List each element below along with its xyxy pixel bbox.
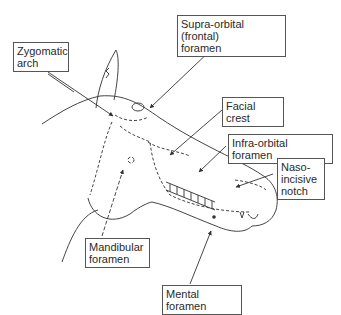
label-mental-foramen: Mental foramen	[162, 285, 242, 315]
label-zygomatic-arch: Zygomatic arch	[13, 42, 69, 72]
label-supra-orbital-foramen: Supra-orbital (frontal) foramen	[177, 15, 286, 57]
label-naso-incisive-notch: Naso- incisive notch	[277, 158, 325, 200]
mental-foramen-dot	[212, 215, 216, 219]
teeth	[166, 182, 258, 219]
leader-lines	[48, 48, 273, 284]
label-facial-crest: Facial crest	[222, 97, 284, 127]
label-mandibular-foramen: Mandibular foramen	[85, 238, 150, 268]
